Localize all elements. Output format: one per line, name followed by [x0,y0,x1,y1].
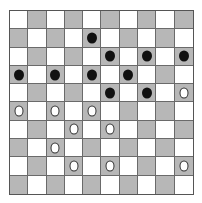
board-square[interactable] [65,157,83,175]
board-square[interactable] [83,157,101,175]
board-square[interactable] [138,157,156,175]
board-square[interactable] [120,11,138,29]
board-square[interactable] [156,11,174,29]
white-checker-piece[interactable] [14,106,23,117]
board-square[interactable] [175,139,193,157]
board-square[interactable] [47,66,65,84]
board-square[interactable] [138,48,156,66]
board-square[interactable] [101,29,119,47]
board-square[interactable] [28,84,46,102]
board-square[interactable] [10,48,28,66]
board-square[interactable] [28,139,46,157]
white-checker-piece[interactable] [179,161,188,172]
board-square[interactable] [65,121,83,139]
board-square[interactable] [138,84,156,102]
board-square[interactable] [83,29,101,47]
board-square[interactable] [83,48,101,66]
board-square[interactable] [83,84,101,102]
board-square[interactable] [120,102,138,120]
board-square[interactable] [83,176,101,194]
board-square[interactable] [47,176,65,194]
board-square[interactable] [101,121,119,139]
board-square[interactable] [120,157,138,175]
board-square[interactable] [10,11,28,29]
board-square[interactable] [156,121,174,139]
board-square[interactable] [138,139,156,157]
board-square[interactable] [101,102,119,120]
white-checker-piece[interactable] [51,142,60,153]
black-checker-piece[interactable] [123,69,133,80]
board-square[interactable] [47,139,65,157]
black-checker-piece[interactable] [14,69,24,80]
white-checker-piece[interactable] [106,161,115,172]
board-square[interactable] [10,66,28,84]
board-square[interactable] [47,84,65,102]
board-square[interactable] [138,121,156,139]
board-square[interactable] [101,176,119,194]
white-checker-piece[interactable] [87,106,96,117]
board-square[interactable] [83,139,101,157]
board-square[interactable] [120,176,138,194]
board-square[interactable] [10,84,28,102]
board-square[interactable] [175,48,193,66]
board-square[interactable] [120,29,138,47]
board-square[interactable] [65,139,83,157]
board-square[interactable] [65,102,83,120]
board-square[interactable] [138,11,156,29]
board-square[interactable] [10,29,28,47]
board-square[interactable] [47,48,65,66]
board-square[interactable] [101,11,119,29]
board-square[interactable] [101,48,119,66]
board-square[interactable] [175,176,193,194]
board-square[interactable] [138,29,156,47]
black-checker-piece[interactable] [87,69,97,80]
board-square[interactable] [101,157,119,175]
board-square[interactable] [65,84,83,102]
black-checker-piece[interactable] [105,51,115,62]
board-square[interactable] [156,66,174,84]
board-square[interactable] [175,29,193,47]
board-square[interactable] [47,29,65,47]
board-square[interactable] [101,139,119,157]
board-square[interactable] [65,176,83,194]
board-square[interactable] [28,29,46,47]
board-square[interactable] [175,66,193,84]
board-square[interactable] [10,139,28,157]
black-checker-piece[interactable] [142,51,152,62]
board-square[interactable] [120,139,138,157]
board-square[interactable] [65,66,83,84]
board-square[interactable] [101,84,119,102]
board-square[interactable] [28,157,46,175]
board-square[interactable] [156,29,174,47]
board-square[interactable] [175,102,193,120]
board-square[interactable] [47,102,65,120]
board-square[interactable] [156,102,174,120]
board-square[interactable] [83,11,101,29]
board-square[interactable] [47,157,65,175]
board-square[interactable] [28,66,46,84]
white-checker-piece[interactable] [69,161,78,172]
board-square[interactable] [83,102,101,120]
board-square[interactable] [138,176,156,194]
board-square[interactable] [175,11,193,29]
board-square[interactable] [175,121,193,139]
board-square[interactable] [120,66,138,84]
board-square[interactable] [156,48,174,66]
board-square[interactable] [175,84,193,102]
black-checker-piece[interactable] [142,87,152,98]
board-square[interactable] [28,121,46,139]
board-square[interactable] [156,157,174,175]
board-square[interactable] [175,157,193,175]
board-square[interactable] [28,48,46,66]
board-square[interactable] [47,11,65,29]
board-square[interactable] [83,121,101,139]
board-square[interactable] [47,121,65,139]
board-square[interactable] [120,121,138,139]
board-square[interactable] [101,66,119,84]
white-checker-piece[interactable] [69,124,78,135]
board-square[interactable] [28,176,46,194]
black-checker-piece[interactable] [50,69,60,80]
board-square[interactable] [10,157,28,175]
board-square[interactable] [65,29,83,47]
board-square[interactable] [156,139,174,157]
